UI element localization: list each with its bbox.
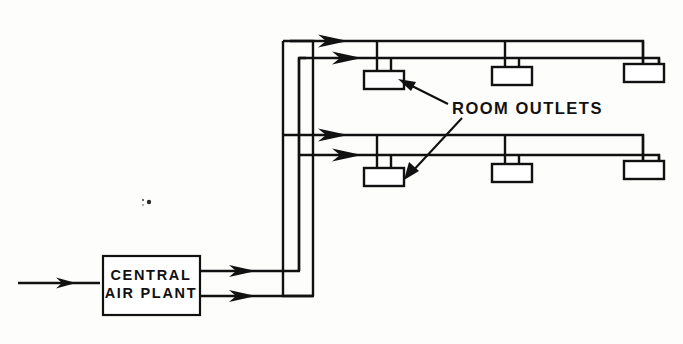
outlet-upper-1 <box>364 71 404 89</box>
outlet-lower-2 <box>492 164 532 182</box>
diagram-canvas: CENTRAL AIR PLANT ROOM OUTLETS <box>0 0 683 344</box>
outlet-lower-1 <box>364 168 404 186</box>
duct-lower-level-secondary <box>299 149 659 162</box>
arrow-head-leader-lower <box>404 162 419 180</box>
outer-riser <box>290 41 313 296</box>
plant-label-line1: CENTRAL <box>110 267 191 283</box>
outlet-upper-2 <box>492 67 532 85</box>
outlet-lower-3 <box>624 161 664 179</box>
scan-artifact-speck <box>142 199 151 206</box>
duct-upper-level-primary <box>283 35 643 65</box>
leader-to-lower-outlet <box>404 118 462 180</box>
duct-schematic: CENTRAL AIR PLANT ROOM OUTLETS <box>0 0 683 344</box>
outlet-upper-3 <box>624 64 664 82</box>
duct-upper-level-secondary <box>299 52 659 65</box>
plant-label-line2: AIR PLANT <box>105 285 198 301</box>
room-outlets-label: ROOM OUTLETS <box>452 99 603 117</box>
leader-to-upper-outlet <box>398 79 448 104</box>
supply-air-inlet <box>18 278 100 289</box>
plant-outlet-upper <box>200 265 300 277</box>
